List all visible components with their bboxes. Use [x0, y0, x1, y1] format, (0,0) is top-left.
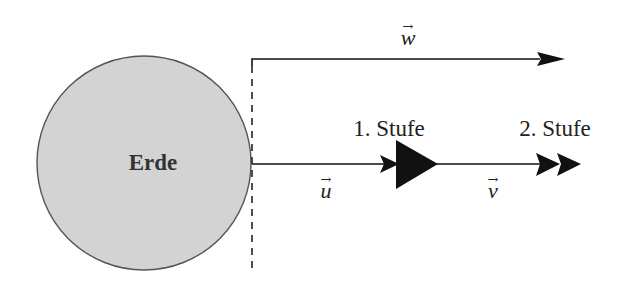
earth-label: Erde	[129, 150, 178, 175]
w-vector-arrow-symbol: →	[403, 19, 414, 34]
stage-1-rocket-icon	[396, 140, 438, 189]
w-vector-line	[252, 59, 540, 66]
w-arrowhead-icon	[537, 52, 565, 66]
stage-2-rocket-icon-front	[557, 153, 581, 176]
v-vector-arrow-symbol: →	[488, 172, 499, 187]
rocket-stage-diagram: Erde w → u → 1. Stufe v → 2. Stufe	[0, 0, 643, 288]
u-vector-arrow-symbol: →	[321, 172, 332, 187]
stage-2-label: 2. Stufe	[519, 116, 591, 141]
stage-1-label: 1. Stufe	[353, 116, 425, 141]
